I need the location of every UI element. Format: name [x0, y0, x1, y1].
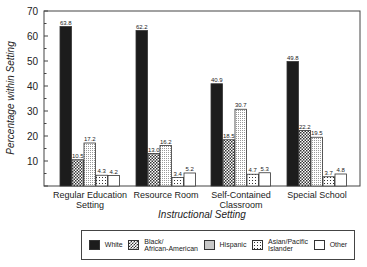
legend-item-black-african-american: Black/African-American	[128, 238, 198, 253]
legend-label: White	[105, 241, 123, 249]
legend: White Black/African-American Hispanic As…	[81, 230, 355, 260]
bar	[96, 175, 108, 186]
x-category-label: Resource Room	[133, 190, 198, 200]
x-category-label: Special School	[287, 190, 347, 200]
x-axis: Regular EducationSettingResource RoomSel…	[53, 190, 347, 210]
legend-swatch-white-icon	[314, 240, 325, 250]
y-tick-label: 10	[27, 156, 39, 167]
bar	[184, 173, 196, 186]
bar-value-label: 4.8	[337, 167, 346, 173]
legend-label: Hispanic	[220, 241, 247, 249]
x-category-label: Self-Contained	[211, 190, 271, 200]
bar	[136, 31, 148, 187]
bar-chart: 10203040506070 63.810.517.24.34.262.213.…	[0, 0, 367, 230]
bar-group: 63.810.517.24.34.2	[60, 20, 120, 187]
legend-label: Other	[330, 241, 348, 249]
legend-label: Black/African-American	[144, 238, 198, 253]
legend-item-other: Other	[314, 240, 348, 250]
bar-value-label: 10.5	[72, 153, 84, 159]
bar-value-label: 5.2	[186, 166, 195, 172]
bar	[172, 178, 184, 187]
bar-value-label: 3.7	[325, 170, 334, 176]
y-tick-label: 20	[27, 131, 39, 142]
bar-value-label: 4.2	[110, 169, 119, 175]
bar-value-label: 19.5	[311, 130, 323, 136]
bar	[72, 160, 84, 186]
bar	[259, 173, 271, 186]
bar-value-label: 3.4	[174, 171, 183, 177]
bar	[247, 174, 259, 186]
bar-value-label: 63.8	[60, 20, 72, 26]
legend-swatch-dots-icon	[204, 240, 215, 250]
bar-value-label: 17.2	[84, 136, 96, 142]
bar-value-label: 49.8	[287, 55, 299, 61]
y-axis-label: Percentage within Setting	[5, 41, 16, 155]
x-category-label: Setting	[76, 200, 104, 210]
bar	[148, 154, 160, 187]
bar	[323, 177, 335, 186]
y-tick-label: 40	[27, 81, 39, 92]
bar	[287, 62, 299, 187]
bars: 63.810.517.24.34.262.213.016.23.45.240.9…	[60, 20, 347, 187]
legend-swatch-grid-dots-icon	[252, 240, 263, 250]
y-tick-label: 50	[27, 56, 39, 67]
bar	[223, 140, 235, 186]
bar-group: 62.213.016.23.45.2	[136, 24, 196, 187]
bar	[299, 131, 311, 187]
bar	[108, 176, 120, 187]
legend-swatch-checker-icon	[128, 240, 139, 250]
bar	[211, 84, 223, 186]
bar	[160, 146, 172, 187]
legend-item-white: White	[89, 240, 123, 250]
bar	[311, 137, 323, 186]
x-category-label: Regular Education	[53, 190, 127, 200]
y-tick-label: 30	[27, 106, 39, 117]
bar-value-label: 16.2	[160, 139, 172, 145]
bar-value-label: 62.2	[136, 24, 148, 30]
legend-item-hispanic: Hispanic	[204, 240, 247, 250]
bar-group: 49.822.219.53.74.8	[287, 55, 347, 187]
bar	[335, 174, 347, 186]
legend-label: Asian/PacificIslander	[268, 238, 308, 253]
bar-value-label: 13.0	[148, 147, 160, 153]
bar	[84, 143, 96, 186]
y-tick-label: 70	[27, 6, 39, 17]
y-axis: 10203040506070	[27, 6, 48, 187]
bar-value-label: 18.5	[223, 133, 235, 139]
y-tick-label: 60	[27, 31, 39, 42]
bar	[60, 27, 72, 187]
bar-value-label: 4.7	[249, 167, 258, 173]
bar-value-label: 5.3	[261, 166, 270, 172]
bar	[235, 109, 247, 186]
bar-value-label: 30.7	[235, 102, 247, 108]
legend-item-asian-pacific-islander: Asian/PacificIslander	[252, 238, 308, 253]
bar-value-label: 40.9	[211, 77, 223, 83]
bar-value-label: 22.2	[299, 124, 311, 130]
legend-swatch-white-icon	[89, 240, 100, 250]
bar-group: 40.918.530.74.75.3	[211, 77, 271, 186]
bar-value-label: 4.3	[98, 168, 107, 174]
x-axis-label: Instructional Setting	[158, 209, 246, 220]
